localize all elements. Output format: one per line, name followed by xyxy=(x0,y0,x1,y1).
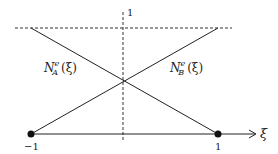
shape-function-diagram: 1 −1 1 ξ NeA(ξ) NeB(ξ) xyxy=(0,0,278,154)
function-a-argument: (ξ) xyxy=(61,61,77,75)
tick-label-right: 1 xyxy=(215,141,221,152)
xi-axis-label: ξ xyxy=(260,126,267,141)
tick-label-top: 1 xyxy=(127,7,133,18)
function-a-superscript: e xyxy=(55,59,60,68)
node-left xyxy=(28,131,35,138)
node-right xyxy=(215,131,222,138)
function-a-subscript: A xyxy=(52,68,58,77)
function-b-superscript: e xyxy=(181,59,186,68)
function-b-subscript: B xyxy=(178,68,184,77)
shape-function-b-label: NeB(ξ) xyxy=(170,60,203,77)
shape-function-a-label: NeA(ξ) xyxy=(44,60,77,77)
diagram-graphics xyxy=(0,0,278,154)
tick-label-left: −1 xyxy=(24,141,39,152)
function-b-argument: (ξ) xyxy=(187,61,203,75)
